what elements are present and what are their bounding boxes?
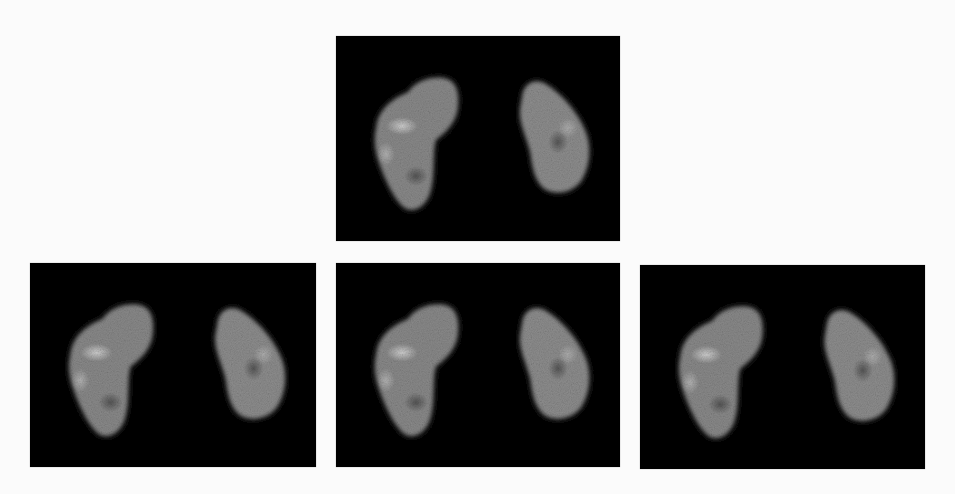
kidney-scan-icon (30, 263, 316, 467)
kidney-scan-icon (336, 36, 620, 241)
kidney-scan-icon (640, 265, 925, 469)
scan-image-bottom-right (640, 265, 925, 469)
kidney-scan-icon (336, 263, 620, 467)
scan-image-bottom-left (30, 263, 316, 467)
scan-image-bottom-middle (336, 263, 620, 467)
scan-image-top (336, 36, 620, 241)
